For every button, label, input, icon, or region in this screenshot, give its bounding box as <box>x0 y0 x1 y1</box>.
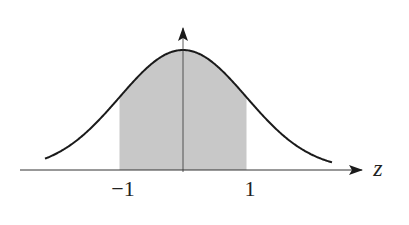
tick-label-one: 1 <box>245 176 256 201</box>
normal-curve-figure: −1 1 z <box>0 0 409 225</box>
x-axis-label: z <box>372 155 383 181</box>
tick-label-minus-one: −1 <box>111 176 134 201</box>
